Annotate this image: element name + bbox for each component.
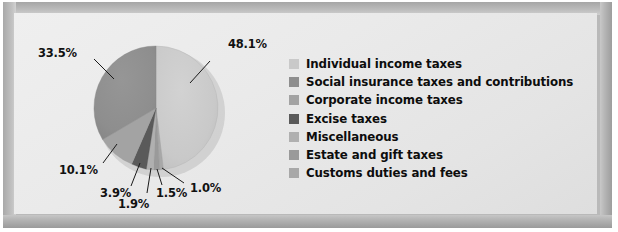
legend-swatch-icon [289, 150, 299, 160]
frame-bevel-right [600, 2, 612, 228]
pie-label-estate-and-gift-taxes: 1.5% [156, 186, 187, 200]
legend-label: Corporate income taxes [306, 93, 463, 107]
pie-label-customs-duties-and-fees: 1.0% [190, 181, 221, 195]
frame-bevel-bottom [3, 215, 612, 228]
pie-label-corporate-income-taxes: 10.1% [59, 163, 98, 177]
legend-label: Miscellaneous [306, 130, 398, 144]
chart-canvas: 48.1% 33.5% 10.1% 3.9% 1.9% 1.5% 1.0% In… [14, 13, 597, 214]
legend-swatch-icon [289, 59, 299, 69]
legend-item-excise-taxes[interactable]: Excise taxes [289, 110, 594, 128]
legend-label: Individual income taxes [306, 57, 462, 71]
chart-screenshot: 48.1% 33.5% 10.1% 3.9% 1.9% 1.5% 1.0% In… [0, 0, 618, 232]
pie-label-miscellaneous: 1.9% [118, 197, 149, 211]
legend-swatch-icon [289, 95, 299, 105]
legend-item-estate-and-gift-taxes[interactable]: Estate and gift taxes [289, 146, 594, 164]
legend-item-customs-duties-and-fees[interactable]: Customs duties and fees [289, 164, 594, 182]
legend-label: Excise taxes [306, 112, 387, 126]
legend-label: Customs duties and fees [306, 166, 468, 180]
legend-swatch-icon [289, 114, 299, 124]
chart-legend: Individual income taxes Social insurance… [289, 55, 594, 182]
legend-item-corporate-income-taxes[interactable]: Corporate income taxes [289, 91, 594, 109]
legend-swatch-icon [289, 168, 299, 178]
legend-swatch-icon [289, 132, 299, 142]
legend-label: Estate and gift taxes [306, 148, 443, 162]
legend-swatch-icon [289, 77, 299, 87]
legend-item-individual-income-taxes[interactable]: Individual income taxes [289, 55, 594, 73]
legend-label: Social insurance taxes and contributions [306, 75, 573, 89]
pie-label-individual-income-taxes: 48.1% [228, 37, 267, 51]
legend-item-miscellaneous[interactable]: Miscellaneous [289, 128, 594, 146]
pie-slices [94, 46, 218, 170]
pie-label-social-insurance-taxes: 33.5% [38, 46, 77, 60]
legend-item-social-insurance-taxes[interactable]: Social insurance taxes and contributions [289, 73, 594, 91]
